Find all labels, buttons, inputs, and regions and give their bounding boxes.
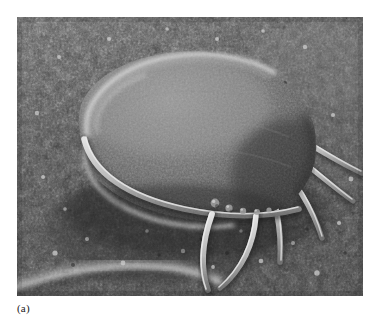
- figure-panel: (a): [0, 0, 382, 326]
- sem-noise-overlay: [17, 17, 363, 296]
- sem-micrograph-image: [17, 17, 363, 296]
- figure-caption-label: (a): [17, 303, 30, 314]
- micrograph-canvas: [17, 17, 363, 296]
